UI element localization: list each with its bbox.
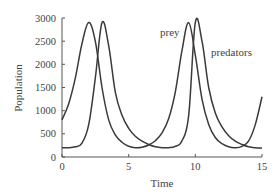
x-tick-label: 0 [59, 161, 64, 172]
prey-curve [62, 23, 262, 148]
y-tick-label: 1000 [35, 105, 56, 116]
y-tick-label: 500 [40, 128, 56, 139]
lotka-volterra-chart: 0 500 1000 1500 2000 2500 3000 0 5 10 15… [0, 0, 278, 195]
x-tick-labels: 0 5 10 15 [59, 161, 267, 172]
prey-label: prey [160, 26, 180, 38]
x-tick-label: 5 [126, 161, 131, 172]
x-axis-title: Time [151, 177, 174, 189]
y-tick-label: 3000 [35, 13, 56, 24]
y-tick-labels: 0 500 1000 1500 2000 2500 3000 [35, 13, 56, 163]
y-tick-label: 2500 [35, 36, 56, 47]
y-tick-label: 1500 [35, 82, 56, 93]
y-tick-label: 0 [51, 152, 56, 163]
y-axis-title: Population [12, 64, 24, 112]
x-tick-label: 10 [190, 161, 201, 172]
predators-label: predators [211, 46, 252, 58]
y-tick-label: 2000 [35, 59, 56, 70]
x-tick-label: 15 [257, 161, 268, 172]
